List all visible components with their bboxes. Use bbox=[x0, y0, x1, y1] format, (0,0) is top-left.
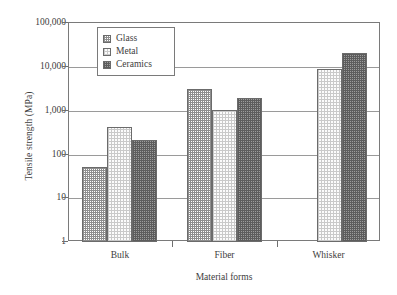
legend-label-ceramics: Ceramics bbox=[116, 60, 152, 70]
y-tick-label-1000: 1,000 bbox=[4, 106, 66, 116]
x-tick-label-whisker: Whisker bbox=[277, 250, 380, 260]
y-tick-label-10: 10 bbox=[4, 193, 66, 203]
x-tick-label-fiber: Fiber bbox=[172, 250, 277, 260]
y-tick-mark-1 bbox=[62, 241, 68, 242]
bar-fiber-ceramics bbox=[237, 98, 262, 242]
legend-label-metal: Metal bbox=[116, 47, 138, 57]
legend-swatch-metal-icon bbox=[103, 48, 111, 56]
legend-swatch-ceramics-icon bbox=[103, 61, 111, 69]
bar-whisker-ceramics bbox=[342, 53, 367, 242]
chart-figure: Tensile strength (MPa) 100,000 10,000 1,… bbox=[0, 0, 397, 295]
y-axis-title: Tensile strength (MPa) bbox=[24, 56, 34, 216]
x-tick-label-bulk: Bulk bbox=[68, 250, 172, 260]
bar-bulk-glass bbox=[82, 167, 107, 242]
y-tick-label-1: 1 bbox=[4, 237, 66, 247]
x-axis-title: Material forms bbox=[68, 272, 380, 282]
bar-fiber-metal bbox=[212, 110, 237, 242]
legend-item-glass: Glass bbox=[103, 32, 168, 45]
legend-item-metal: Metal bbox=[103, 45, 168, 58]
legend-label-glass: Glass bbox=[116, 34, 137, 44]
bar-fiber-glass bbox=[187, 89, 212, 242]
bar-whisker-metal bbox=[317, 69, 342, 242]
x-separator-bulk-fiber bbox=[172, 241, 173, 247]
y-tick-label-100: 100 bbox=[4, 150, 66, 160]
bar-bulk-metal bbox=[107, 127, 132, 242]
y-tick-label-10000: 10,000 bbox=[4, 62, 66, 72]
y-tick-label-100000: 100,000 bbox=[4, 18, 66, 28]
legend-swatch-glass-icon bbox=[103, 35, 111, 43]
bar-bulk-ceramics bbox=[132, 140, 157, 242]
chart-legend: Glass Metal Ceramics bbox=[97, 27, 175, 76]
x-separator-fiber-whisker bbox=[277, 241, 278, 247]
legend-item-ceramics: Ceramics bbox=[103, 58, 168, 71]
